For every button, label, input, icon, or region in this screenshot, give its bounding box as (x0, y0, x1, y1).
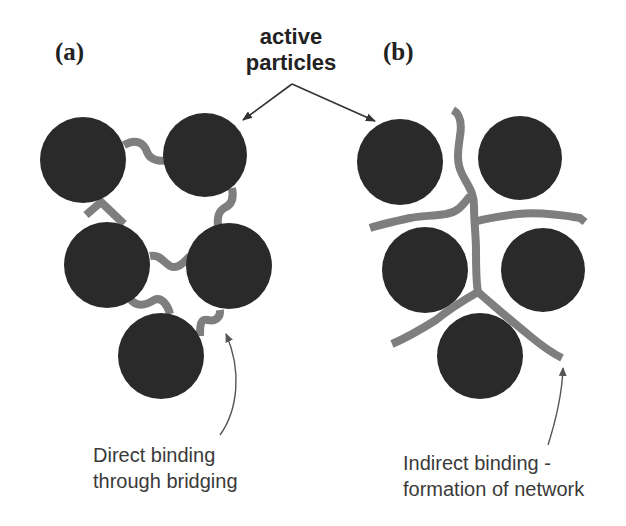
network-strand (474, 213, 585, 222)
panel-b-label: (b) (383, 38, 414, 66)
active-particle (118, 313, 204, 399)
panel-b: Indirect binding - formation of network (357, 110, 585, 500)
bridge (200, 310, 220, 336)
active-particle (437, 313, 523, 399)
bridge (131, 299, 170, 314)
bridge (86, 202, 124, 224)
caption-b-line1: Indirect binding - (403, 452, 551, 474)
callout-line2: particles (246, 50, 337, 75)
active-particle (382, 227, 468, 313)
binder-mechanism-diagram: (a) (b) active particles (0, 0, 626, 526)
active-particle (163, 113, 247, 197)
caption-a-arrow (220, 334, 236, 435)
bridge (150, 256, 190, 267)
active-particle (478, 116, 562, 200)
caption-a-line2: through bridging (93, 470, 238, 492)
caption-b-arrow (548, 368, 563, 445)
active-particle (40, 117, 126, 203)
arrow-to-panel-b (292, 84, 375, 121)
caption-b-line2: formation of network (403, 478, 585, 500)
panel-b-particles (357, 116, 585, 399)
active-particle (501, 228, 585, 312)
bridge (124, 142, 166, 161)
active-particle (186, 223, 272, 309)
panel-a: Direct binding through bridging (40, 113, 272, 492)
callout-arrows (243, 84, 375, 121)
caption-a-line1: Direct binding (93, 444, 215, 466)
active-particle (357, 119, 443, 205)
callout-line1: active (260, 24, 322, 49)
panel-a-label: (a) (55, 38, 84, 66)
arrow-to-panel-a (243, 84, 292, 120)
active-particle (64, 222, 150, 308)
